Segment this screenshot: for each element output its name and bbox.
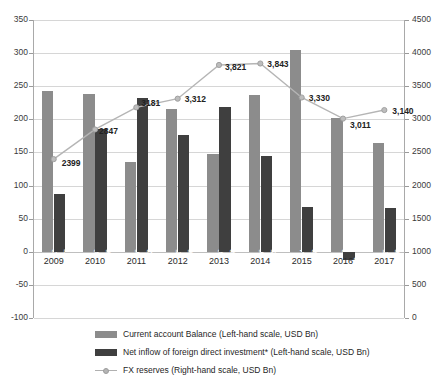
y-axis-right-tickmark — [405, 152, 409, 153]
legend-line-marker-icon-fx — [95, 367, 117, 374]
fx-reserves-marker-2012 — [175, 96, 180, 101]
y-axis-right-tick: 3500 — [412, 81, 431, 90]
fx-reserves-marker-2014 — [258, 61, 263, 66]
y-axis-left-tick: -100 — [11, 313, 28, 322]
y-axis-left-tickmark — [29, 318, 33, 319]
y-axis-left-tick: 100 — [14, 181, 28, 190]
y-axis-right-tickmark — [405, 219, 409, 220]
y-axis-right-tickmark — [405, 119, 409, 120]
fx-reserves-label-2009: 2399 — [62, 158, 81, 168]
legend-label-fdi: Net inflow of foreign direct investment*… — [123, 348, 370, 357]
fx-reserves-label-2017: 3,140 — [392, 106, 413, 116]
fx-reserves-polyline — [54, 64, 385, 160]
fx-reserves-label-2010: 2847 — [99, 126, 118, 136]
y-axis-right-tick: 1500 — [412, 214, 431, 223]
fx-reserves-label-2013: 3,821 — [225, 62, 246, 72]
legend-swatch-icon-fdi — [95, 349, 117, 356]
fx-reserves-marker-2016 — [340, 116, 345, 121]
y-axis-right-tickmark — [405, 252, 409, 253]
y-axis-left-tick: 300 — [14, 48, 28, 57]
legend-item-fx-reserves: FX reserves (Right-hand scale, USD Bn) — [95, 364, 425, 377]
y-axis-right-tickmark — [405, 20, 409, 21]
y-axis-left-tick: -50 — [16, 280, 28, 289]
legend-item-current-account-balance: Current account Balance (Left-hand scale… — [95, 328, 425, 341]
gridline — [34, 318, 404, 319]
y-axis-right-tick: 1000 — [412, 247, 431, 256]
y-axis-right-tickmark — [405, 285, 409, 286]
y-axis-right-tickmark — [405, 186, 409, 187]
y-axis-right-tick: 4000 — [412, 48, 431, 57]
combo-chart: 350300250200150100500-50-100450040003500… — [0, 0, 445, 388]
fx-reserves-label-2016: 3,011 — [350, 120, 371, 130]
y-axis-right-tickmark — [405, 53, 409, 54]
fx-reserves-label-2015: 3,330 — [309, 93, 330, 103]
fx-reserves-marker-2013 — [216, 62, 221, 67]
legend-swatch-icon-cab — [95, 331, 117, 338]
y-axis-right-tick: 2500 — [412, 147, 431, 156]
legend-label-fx: FX reserves (Right-hand scale, USD Bn) — [123, 366, 276, 375]
fx-reserves-marker-2010 — [92, 127, 97, 132]
fx-reserves-marker-2017 — [382, 107, 387, 112]
fx-reserves-label-2011: 3181 — [141, 98, 160, 108]
y-axis-right-tick: 0 — [412, 313, 417, 322]
y-axis-right-tick: 3000 — [412, 114, 431, 123]
chart-legend: Current account Balance (Left-hand scale… — [95, 328, 425, 382]
y-axis-left-tick: 250 — [14, 81, 28, 90]
fx-reserves-marker-2009 — [51, 157, 56, 162]
y-axis-left-tick: 50 — [19, 214, 28, 223]
fx-reserves-line — [33, 20, 405, 318]
fx-reserves-marker-2011 — [134, 105, 139, 110]
y-axis-left-tick: 350 — [14, 15, 28, 24]
fx-reserves-marker-2015 — [299, 95, 304, 100]
y-axis-left-tick: 200 — [14, 114, 28, 123]
y-axis-left-tick: 150 — [14, 147, 28, 156]
fx-reserves-label-2012: 3,312 — [185, 94, 206, 104]
y-axis-right-tick: 2000 — [412, 181, 431, 190]
legend-label-cab: Current account Balance (Left-hand scale… — [123, 330, 318, 339]
y-axis-left-tick: 0 — [23, 247, 28, 256]
fx-reserves-label-2014: 3,843 — [267, 59, 288, 69]
y-axis-right-tickmark — [405, 318, 409, 319]
legend-item-net-fdi: Net inflow of foreign direct investment*… — [95, 346, 425, 359]
y-axis-right-tick: 4500 — [412, 15, 431, 24]
y-axis-right-tickmark — [405, 86, 409, 87]
y-axis-right-tick: 500 — [412, 280, 426, 289]
